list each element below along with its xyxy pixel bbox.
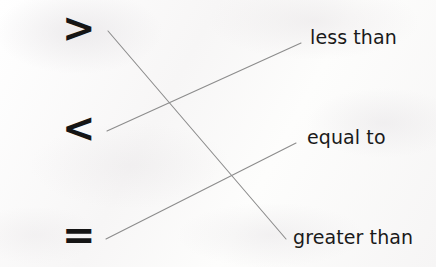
label-equal-to[interactable]: equal to: [307, 128, 386, 147]
less-than-symbol[interactable]: <: [62, 108, 96, 148]
equals-symbol[interactable]: =: [62, 215, 96, 255]
label-greater-than[interactable]: greater than: [293, 228, 413, 247]
greater-than-symbol[interactable]: >: [62, 8, 96, 48]
matching-worksheet: > < = less than equal to greater than: [0, 0, 436, 267]
label-less-than[interactable]: less than: [310, 28, 397, 47]
connector-line-less-than[interactable]: [107, 43, 301, 131]
connector-line-equal-to[interactable]: [106, 143, 296, 239]
